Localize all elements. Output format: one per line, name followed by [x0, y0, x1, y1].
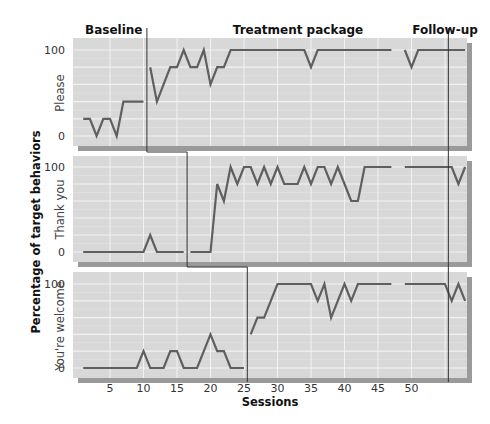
panel-background — [73, 272, 467, 378]
x-tick-label: 45 — [371, 382, 385, 395]
y-axis-title: Percentage of target behaviors — [29, 130, 43, 333]
x-tick-label: 50 — [405, 382, 419, 395]
multiple-baseline-chart: 0100Please0100Thank you0100You're welcom… — [0, 0, 490, 424]
panel-label: Thank you — [53, 179, 67, 240]
y-tick-label: 0 — [58, 246, 65, 259]
panel-background — [73, 156, 467, 262]
panel-please: 0100Please — [44, 38, 472, 151]
x-axis-title: Sessions — [242, 395, 299, 409]
x-tick-label: 20 — [204, 382, 218, 395]
panels-layer: 0100Please0100Thank you0100You're welcom… — [44, 38, 472, 383]
y-tick-label: 100 — [44, 161, 65, 174]
x-tick-labels: 5101520253035404550 — [107, 382, 419, 395]
x-tick-label: 15 — [170, 382, 184, 395]
panel-background — [73, 38, 467, 146]
y-tick-label: 100 — [44, 44, 65, 57]
x-tick-label: 40 — [338, 382, 352, 395]
y-tick-label: 0 — [58, 130, 65, 143]
panel-thank-you: 0100Thank you — [44, 156, 472, 267]
x-tick-label: 25 — [237, 382, 251, 395]
phase-label-follow-up: Follow-up — [412, 23, 478, 37]
x-tick-label: 5 — [107, 382, 114, 395]
panel-label: Please — [53, 74, 67, 111]
panel-you-re-welcome: 0100You're welcome — [44, 272, 472, 383]
x-tick-label: 10 — [137, 382, 151, 395]
x-tick-label: 30 — [271, 382, 285, 395]
x-tick-label: 35 — [304, 382, 318, 395]
panel-label: You're welcome — [53, 281, 67, 372]
phase-label-treatment: Treatment package — [233, 23, 363, 37]
phase-label-baseline: Baseline — [85, 23, 142, 37]
